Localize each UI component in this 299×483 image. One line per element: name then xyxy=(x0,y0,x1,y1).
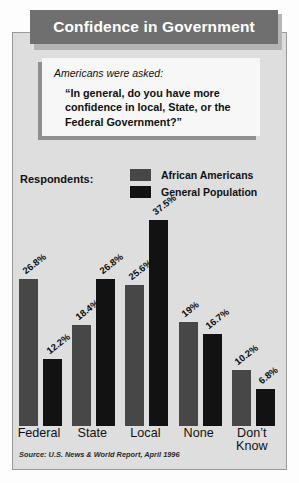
respondents-label: Respondents: xyxy=(20,173,93,185)
bar-value-label: 6.8% xyxy=(257,364,281,386)
bar-value-label: 10.2% xyxy=(233,342,261,367)
bar-value-label: 26.8% xyxy=(97,251,125,276)
bar-value-label: 12.2% xyxy=(44,331,72,356)
question-intro: Americans were asked: xyxy=(54,67,250,79)
x-axis-label: Local xyxy=(117,427,173,440)
bar: 26.8% xyxy=(96,279,115,426)
chart-page: Confidence in Government Americans were … xyxy=(0,0,299,483)
question-text: “In general, do you have more confidence… xyxy=(54,86,250,129)
x-axis-label: Federal xyxy=(11,427,67,440)
x-axis-label: State xyxy=(64,427,120,440)
legend-item-african-americans: African Americans xyxy=(130,169,253,181)
bar: 37.5% xyxy=(149,220,168,426)
legend-item-general-population: General Population xyxy=(130,186,257,198)
bar: 16.7% xyxy=(203,334,222,426)
bar: 26.8% xyxy=(19,279,38,426)
x-axis-label: Don’t Know xyxy=(224,427,280,454)
bar-value-label: 16.7% xyxy=(203,306,231,331)
legend-label-african-americans: African Americans xyxy=(161,169,253,181)
title-banner: Confidence in Government xyxy=(30,10,278,44)
bar: 19% xyxy=(179,322,198,427)
legend-swatch-african-americans xyxy=(130,169,151,181)
chart-legend: Respondents: African Americans General P… xyxy=(20,169,282,205)
bar: 6.8% xyxy=(256,389,275,426)
bar: 12.2% xyxy=(43,359,62,426)
bar: 25.6% xyxy=(125,285,144,426)
page-title: Confidence in Government xyxy=(53,18,255,36)
source-note: Source: U.S. News & World Report, April … xyxy=(19,450,180,459)
question-box: Americans were asked: “In general, do yo… xyxy=(42,58,260,136)
bar-value-label: 19% xyxy=(179,298,201,318)
bar: 18.4% xyxy=(72,325,91,426)
x-axis-labels: FederalStateLocalNoneDon’t Know xyxy=(16,427,282,469)
legend-swatch-general-population xyxy=(130,186,151,198)
bar-plot-area: 26.8%12.2%18.4%26.8%25.6%37.5%19%16.7%10… xyxy=(16,206,282,426)
bar-value-label: 26.8% xyxy=(20,251,48,276)
bar: 10.2% xyxy=(232,370,251,426)
x-axis-label: None xyxy=(171,427,227,440)
